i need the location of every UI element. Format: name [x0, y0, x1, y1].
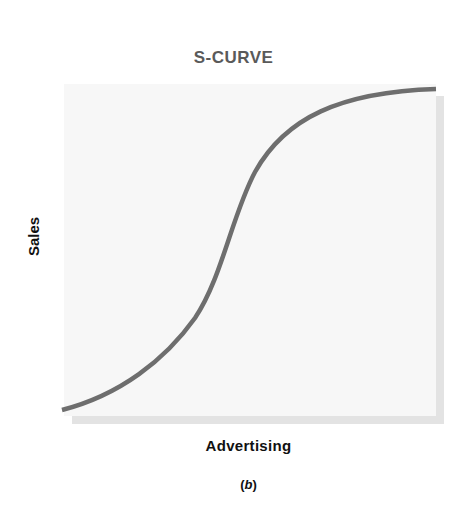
s-curve-plot — [0, 0, 467, 505]
caption-close: ) — [252, 477, 256, 492]
chart-title: S-CURVE — [0, 48, 467, 68]
figure-caption: (b) — [0, 477, 467, 492]
y-axis-label: Sales — [25, 207, 42, 267]
plot-panel — [64, 84, 436, 416]
x-axis-label: Advertising — [0, 437, 467, 454]
